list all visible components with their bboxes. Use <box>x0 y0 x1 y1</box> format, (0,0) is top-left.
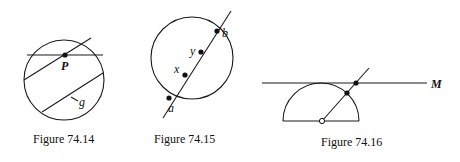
label-g: g <box>79 95 85 109</box>
circle <box>151 17 233 99</box>
figure-74-14: P g Figure 74.14 <box>24 38 104 146</box>
point-a <box>166 95 171 100</box>
point-b <box>214 28 219 33</box>
figures-canvas: P g Figure 74.14 a x y b Figure 74.15 M … <box>0 0 460 162</box>
open-center-point <box>319 118 324 123</box>
label-y: y <box>189 44 196 58</box>
label-a: a <box>168 101 174 115</box>
caption-74-15: Figure 74.15 <box>154 132 215 146</box>
point-on-line-m <box>353 80 358 85</box>
label-m: M <box>430 77 442 91</box>
label-x: x <box>173 62 180 76</box>
caption-74-14: Figure 74.14 <box>33 132 94 146</box>
figure-74-16: M Figure 74.16 <box>262 68 442 149</box>
label-p: P <box>61 59 69 73</box>
semicircle-arc <box>283 83 359 121</box>
g-leader-line <box>71 97 78 101</box>
point-on-arc <box>344 90 349 95</box>
oblique-chord-upper <box>24 38 91 80</box>
point-y <box>198 49 203 54</box>
label-b: b <box>222 26 228 40</box>
point-x <box>182 72 187 77</box>
figure-74-15: a x y b Figure 74.15 <box>151 11 233 146</box>
point-p <box>62 52 67 57</box>
caption-74-16: Figure 74.16 <box>321 135 382 149</box>
